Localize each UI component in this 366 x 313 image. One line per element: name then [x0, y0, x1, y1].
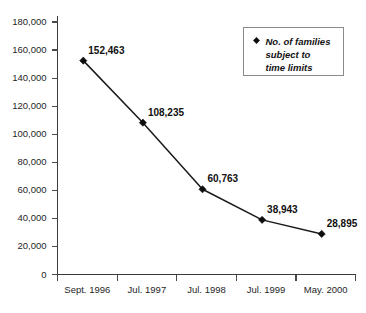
chart-legend: No. of familiessubject totime limits	[244, 28, 344, 76]
y-axis-tick-label: 120,000	[12, 100, 46, 111]
y-axis-tick-label: 140,000	[12, 72, 46, 83]
y-axis-tick-label: 80,000	[17, 156, 46, 167]
chart-container: 020,00040,00060,00080,000100,000120,0001…	[0, 0, 366, 313]
x-axis-tick-label: May. 2000	[304, 284, 348, 295]
y-axis-tick-label: 40,000	[17, 212, 46, 223]
legend-label-line: subject to	[266, 49, 311, 60]
y-axis: 020,00040,00060,00080,000100,000120,0001…	[12, 16, 57, 280]
y-axis-tick-label: 100,000	[12, 128, 46, 139]
data-point-marker	[259, 216, 266, 223]
x-axis-tick-label: Jul. 1997	[128, 284, 167, 295]
line-chart: 020,00040,00060,00080,000100,000120,0001…	[0, 0, 366, 313]
x-axis-tick-label: Jul. 1999	[247, 284, 286, 295]
x-axis-tick-label: Jul. 1998	[187, 284, 226, 295]
x-axis-tick-label: Sept. 1996	[64, 284, 110, 295]
y-axis-tick-label: 160,000	[12, 44, 46, 55]
x-axis: Sept. 1996Jul. 1997Jul. 1998Jul. 1999May…	[58, 275, 356, 295]
data-point-label: 108,235	[148, 107, 185, 118]
data-point-label: 152,463	[88, 45, 125, 56]
legend-label-line: time limits	[266, 62, 313, 73]
y-axis-tick-label: 0	[41, 269, 46, 280]
data-point-label: 38,943	[267, 204, 298, 215]
legend-label-line: No. of families	[266, 36, 331, 47]
data-point-label: 60,763	[208, 173, 239, 184]
data-point-marker	[318, 230, 325, 237]
data-point-label: 28,895	[327, 218, 358, 229]
y-axis-tick-label: 20,000	[17, 240, 46, 251]
y-axis-tick-label: 180,000	[12, 16, 46, 27]
y-axis-tick-label: 60,000	[17, 184, 46, 195]
